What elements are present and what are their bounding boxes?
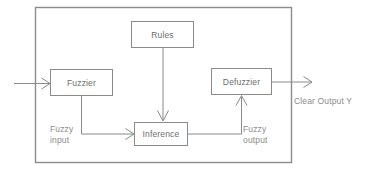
connector-fuzzier-to-inference — [82, 96, 135, 134]
diagram-canvas — [0, 0, 368, 172]
block-inference — [135, 123, 188, 146]
block-defuzzier — [212, 69, 272, 95]
connector-inference-to-defuzzier — [188, 97, 242, 134]
fuzzy-system-diagram: Rules Fuzzier Defuzzier Inference Fuzzy … — [0, 0, 368, 172]
block-rules — [132, 22, 194, 48]
annotation-fuzzy-output-line1: Fuzzy — [243, 124, 268, 135]
annotation-clear-output: Clear Output Y — [294, 96, 352, 107]
annotation-fuzzy-output-line2: output — [243, 135, 268, 146]
annotation-clear-output-line1: Clear Output Y — [294, 96, 352, 107]
block-fuzzier — [51, 70, 113, 96]
annotation-fuzzy-output: Fuzzy output — [243, 124, 268, 146]
annotation-fuzzy-input-line1: Fuzzy — [50, 124, 73, 135]
annotation-fuzzy-input-line2: input — [50, 135, 73, 146]
annotation-fuzzy-input: Fuzzy input — [50, 124, 73, 146]
